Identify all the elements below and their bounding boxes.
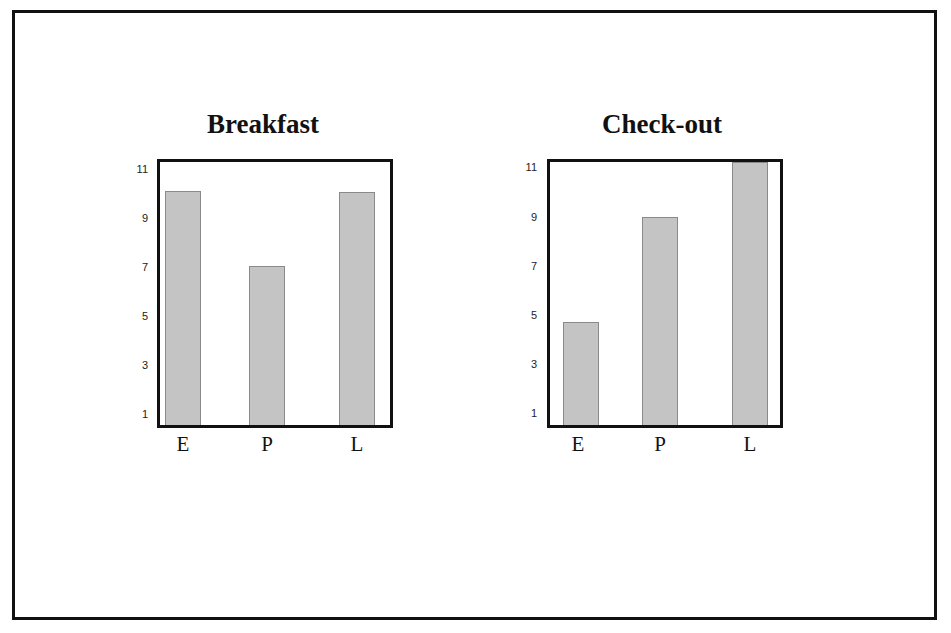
x-label: E — [558, 433, 598, 455]
y-tick: 11 — [128, 163, 148, 175]
x-label: P — [247, 433, 287, 455]
bar-l — [339, 192, 375, 425]
bar-e — [165, 191, 201, 425]
x-label: P — [640, 433, 680, 455]
y-tick: 11 — [517, 161, 537, 173]
y-tick: 3 — [128, 359, 148, 371]
x-label: E — [163, 433, 203, 455]
bar-p — [249, 266, 285, 425]
x-label: L — [337, 433, 377, 455]
bar-p — [642, 217, 678, 425]
y-tick: 3 — [517, 358, 537, 370]
y-tick: 9 — [517, 211, 537, 223]
y-tick: 5 — [517, 309, 537, 321]
y-tick: 1 — [128, 408, 148, 420]
chart-title: Breakfast — [133, 109, 393, 139]
bar-e — [563, 322, 599, 425]
y-tick: 9 — [128, 212, 148, 224]
y-tick: 7 — [128, 261, 148, 273]
bar-l — [732, 162, 768, 425]
x-label: L — [730, 433, 770, 455]
y-tick: 7 — [517, 260, 537, 272]
chart-title: Check-out — [532, 109, 792, 139]
figure-border — [12, 10, 937, 620]
y-tick: 1 — [517, 407, 537, 419]
y-tick: 5 — [128, 310, 148, 322]
